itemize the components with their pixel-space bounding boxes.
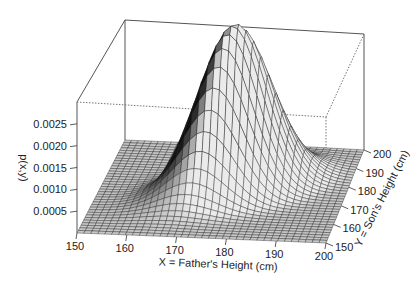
z-axis-label: p(x,y) bbox=[18, 154, 30, 182]
z-tick-label: 0.0025 bbox=[33, 118, 67, 130]
z-tick-label: 0.0020 bbox=[33, 140, 67, 152]
y-tick-label: 180 bbox=[358, 185, 376, 197]
y-axis-label: Y = Son's Height (cm) bbox=[352, 148, 411, 249]
z-axis: 0.00050.00100.00150.00200.0025 bbox=[33, 118, 77, 217]
x-tick-label: 160 bbox=[116, 242, 134, 254]
y-tick-label: 150 bbox=[335, 241, 353, 253]
y-tick-label: 200 bbox=[373, 148, 391, 160]
x-tick-label: 150 bbox=[66, 240, 84, 252]
x-tick-label: 190 bbox=[265, 248, 283, 260]
x-axis-label: X = Father's Height (cm) bbox=[158, 255, 278, 272]
z-tick-label: 0.0010 bbox=[33, 183, 67, 195]
x-tick-label: 170 bbox=[165, 244, 183, 256]
x-tick-label: 180 bbox=[215, 246, 233, 258]
surface-plot: 0.00050.00100.00150.00200.0025 p(x,y) 15… bbox=[0, 0, 419, 281]
z-tick-label: 0.0015 bbox=[33, 162, 67, 174]
surface-mesh bbox=[77, 25, 364, 244]
z-tick-label: 0.0005 bbox=[33, 205, 67, 217]
y-tick-label: 190 bbox=[365, 167, 383, 179]
x-tick-label: 200 bbox=[315, 250, 333, 262]
